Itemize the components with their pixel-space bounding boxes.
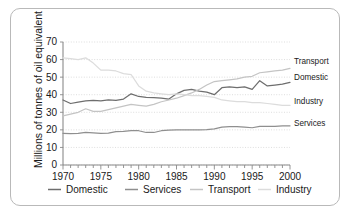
legend-label-domestic: Domestic [66,184,108,195]
series-end-label-industry: Industry [294,97,324,106]
legend-group: DomesticServicesTransportIndustry [48,184,312,195]
data-series-group [63,58,290,134]
x-tick-label-1990: 1990 [203,171,226,182]
legend-label-services: Services [143,184,181,195]
line-chart: 010203040506070 197019751980198519901995… [0,0,347,214]
series-line-transport [63,68,290,115]
x-tick-label-1985: 1985 [165,171,188,182]
y-tick-label-70: 70 [46,36,58,47]
y-tick-label-30: 30 [46,107,58,118]
y-axis-label: Millions of tonnes of oil equivalent [32,11,44,168]
y-tick-label-60: 60 [46,54,58,65]
x-tick-labels-group: 1970197519801985199019952000 [52,171,302,182]
y-tick-label-0: 0 [51,159,57,170]
series-end-label-transport: Transport [294,57,329,66]
legend-label-industry: Industry [276,184,312,195]
y-tick-label-50: 50 [46,72,58,83]
x-tick-label-2000: 2000 [279,171,302,182]
series-end-labels-group: DomesticServicesTransportIndustry [294,57,329,128]
axes-group [60,42,290,170]
series-end-label-domestic: Domestic [294,73,328,82]
y-tick-labels-group: 010203040506070 [46,36,58,170]
series-line-domestic [63,81,290,104]
y-tick-label-40: 40 [46,89,58,100]
y-tick-label-10: 10 [46,142,58,153]
chart-figure: 010203040506070 197019751980198519901995… [0,0,347,214]
x-tick-label-1970: 1970 [52,171,75,182]
x-tick-label-1975: 1975 [90,171,113,182]
x-tick-label-1995: 1995 [241,171,264,182]
y-tick-label-20: 20 [46,124,58,135]
legend-label-transport: Transport [208,184,251,195]
series-end-label-services: Services [294,119,325,128]
x-tick-label-1980: 1980 [128,171,151,182]
gridlines-group [63,42,290,165]
